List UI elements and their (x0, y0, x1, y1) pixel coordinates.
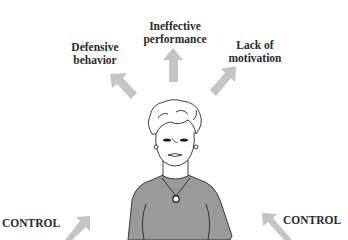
label-line: performance (143, 33, 206, 46)
label-line: motivation (224, 52, 286, 65)
mouth (168, 154, 182, 157)
shirt (128, 175, 232, 240)
label-line: Defensive (66, 41, 124, 54)
control-arrow-left-icon (65, 216, 90, 240)
manager-figure (128, 100, 232, 240)
label-line: behavior (66, 54, 124, 67)
label-control-right: CONTROL (283, 214, 341, 227)
label-lack-of-motivation: Lack of motivation (224, 39, 286, 65)
label-line: Lack of (224, 39, 286, 52)
pendant (173, 196, 179, 202)
figure-canvas: Ineffective performance Defensive behavi… (0, 0, 348, 240)
label-control-left: CONTROL (2, 217, 60, 230)
hair (148, 100, 201, 134)
arrow-up-right-icon (210, 66, 236, 96)
left-eye (163, 138, 171, 141)
right-eye (180, 138, 188, 141)
arrow-up-left-icon (110, 73, 137, 99)
label-defensive-behavior: Defensive behavior (66, 41, 124, 67)
label-line: Ineffective (143, 20, 206, 33)
face (156, 132, 195, 166)
arrow-up-icon (163, 48, 183, 82)
